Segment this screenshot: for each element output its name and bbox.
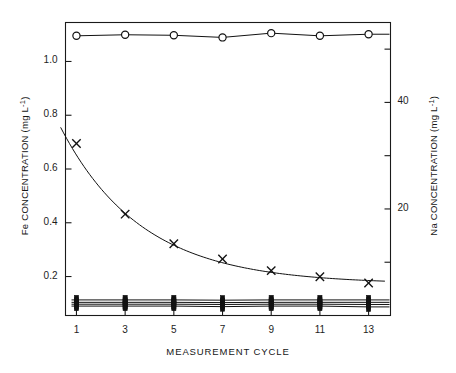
x-tick-label: 5 <box>159 324 189 335</box>
plot-frame <box>66 23 391 316</box>
data-point-filled-marker <box>366 302 370 311</box>
data-point-open-circle <box>365 31 372 38</box>
y-right-tick-label: 40 <box>398 95 432 106</box>
data-series-layer <box>61 30 390 312</box>
series-line-flat <box>72 306 390 307</box>
data-point-cross <box>121 210 129 218</box>
x-tick-label: 1 <box>61 324 91 335</box>
data-point-filled-marker <box>123 301 127 310</box>
data-point-cross <box>72 139 80 147</box>
data-point-filled-marker <box>74 301 78 310</box>
y-axis-right-ticks <box>385 49 391 262</box>
data-point-cross <box>316 273 324 281</box>
data-point-open-circle <box>316 32 323 39</box>
data-point-cross <box>218 255 226 263</box>
x-axis-title: MEASUREMENT CYCLE <box>0 346 456 357</box>
chart-figure: Fe CONCENTRATION (mg L-1) Na CONCENTRATI… <box>0 0 456 373</box>
data-point-open-circle <box>122 31 129 38</box>
data-point-filled-marker <box>318 301 322 310</box>
data-point-filled-marker <box>172 301 176 310</box>
data-point-filled-marker <box>220 302 224 311</box>
data-point-cross <box>267 266 275 274</box>
x-tick-label: 11 <box>305 324 335 335</box>
y-left-tick-label: 0.8 <box>24 108 58 119</box>
y-left-tick-label: 0.4 <box>24 216 58 227</box>
y-axis-left-ticks <box>66 61 72 276</box>
data-point-open-circle <box>219 34 226 41</box>
data-point-filled-marker <box>269 301 273 310</box>
series-line-na <box>74 33 390 37</box>
data-point-open-circle <box>73 32 80 39</box>
x-tick-label: 9 <box>256 324 286 335</box>
chart-plot-area <box>0 0 456 373</box>
y-left-tick-label: 0.6 <box>24 162 58 173</box>
y-left-tick-label: 1.0 <box>24 54 58 65</box>
x-tick-label: 13 <box>354 324 384 335</box>
y-right-tick-label: 20 <box>398 202 432 213</box>
x-tick-label: 3 <box>110 324 140 335</box>
x-tick-label: 7 <box>208 324 238 335</box>
y-left-tick-label: 0.2 <box>24 270 58 281</box>
data-point-open-circle <box>170 32 177 39</box>
data-point-open-circle <box>268 30 275 37</box>
axis-frame <box>66 23 391 316</box>
